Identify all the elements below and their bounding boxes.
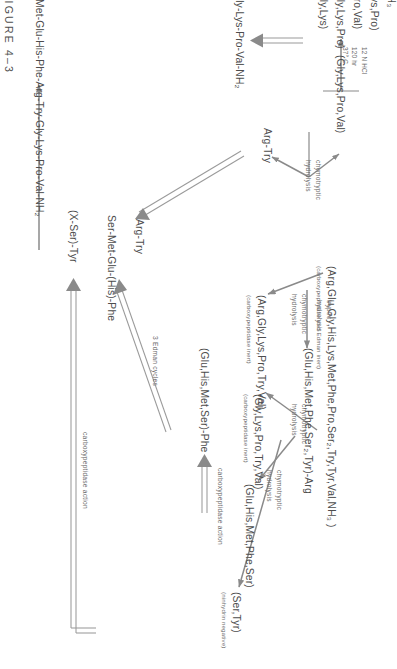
label-chymotryptic-fork-line1: chymotryptic [313, 160, 323, 200]
label-carboxypeptidase-action-2: carboxypeptidase action [80, 432, 90, 509]
node-x-ser-tyr-text: (X-Ser)-Tyr [68, 210, 79, 263]
condition-temp: 37° C [340, 47, 350, 75]
node-arg-try-top: Arg-Try [260, 128, 273, 163]
label-chymotryptic-3-line1: chymotryptic [274, 470, 284, 510]
label-chymotryptic-2-line2: hydrolysis [290, 404, 300, 444]
node-hydrolysate-c: (Gly,Lys) [316, 0, 329, 29]
node-tryptic-big: (Arg,Gly,Lys,Pro,Try,Val) (carboxypeptid… [245, 295, 267, 410]
node-glu-his-phe-text: (Glu,His,Met,Ser)-Phe [199, 348, 210, 452]
node-ser-met-glu-his-phe: Ser-Met-Glu-(His)-Phe [104, 215, 117, 321]
label-chymotryptic-fork-line2: hydrolysis [304, 160, 314, 200]
node-hydrolysate-e: NH₃ [384, 0, 397, 8]
node-tryptic-big-note: (carboxypeptidase inert) [245, 295, 253, 410]
label-chymotryptic-3-line2: hydrolysis [265, 470, 275, 510]
conditions-acid-hydrolysis: 12 N HCl 120 hr 37° C [340, 47, 369, 75]
node-x-ser-tyr: (X-Ser)-Tyr [66, 210, 79, 263]
node-arg-try-top-text: Arg-Try [262, 128, 273, 163]
node-ser-tyr: (Ser,Tyr) (ninhydrin negative) [220, 592, 242, 648]
node-tryptic-small-text: (Gly,Lys,Pro,Try,Val) [253, 394, 264, 490]
node-glu-his-ser: (Glu,His,Met,Phe,Ser) [242, 484, 255, 588]
double-arrow-edman [113, 279, 171, 432]
node-ser-tyr-note: (ninhydrin negative) [220, 592, 228, 648]
label-edman-cycles: 3 Edman cycles [150, 336, 160, 386]
node-final-sequence-text: X-Ser-Tyr-Ser-Met-Glu-His-Phe-Arg-Try-Gl… [34, 0, 45, 217]
figure-caption: FIGURE 4–3 [3, 0, 15, 74]
node-tryptic-small-note: (carboxypeptidase inert) [242, 394, 250, 490]
label-chymotryptic-fork: chymotryptic hydrolysis [304, 160, 323, 200]
label-tryptic-line2: hydrolysis [315, 300, 325, 332]
label-carboxypeptidase-action-1: carboxypeptidase action [215, 468, 225, 545]
node-ser-tyr-text: (Ser,Tyr) [231, 592, 242, 633]
condition-time: 120 hr [350, 47, 360, 75]
node-glu-his-phe: (Glu,His,Met,Ser)-Phe [197, 348, 210, 452]
node-arg-try-mid: Arg-Try [132, 219, 145, 254]
node-hydrolysate-d-text: (Lys,Pro) [369, 0, 380, 31]
label-tryptic-line1: tryptic [324, 300, 334, 332]
label-chymotryptic-2: chymotryptic hydrolysis [290, 404, 309, 444]
node-hydrolysate-b-text: (Pro,Val) [352, 0, 363, 29]
node-hydrolysate-a: (Gly,Lys,Pro) [333, 0, 346, 49]
double-arrow-arg-try-diagonal [135, 151, 244, 220]
node-glu-his-ser-text: (Glu,His,Met,Phe,Ser) [244, 484, 255, 588]
node-hydrolysate-e-text: NH₃ [386, 0, 397, 8]
node-hydrolysate-c-text: (Gly,Lys) [318, 0, 329, 29]
label-chymotryptic-2-line1: chymotryptic [299, 404, 309, 444]
node-hydrolysate-d: (Lys,Pro) [367, 0, 380, 31]
node-hydrolysate-a-text: (Gly,Lys,Pro) [335, 0, 346, 49]
node-gly-lys-pro-val-nh2: Gly-Lys-Pro-Val-NH₂ [232, 0, 245, 89]
node-hydrolysate-b: (Pro,Val) [350, 0, 363, 29]
node-final-sequence: X-Ser-Tyr-Ser-Met-Glu-His-Phe-Arg-Try-Gl… [32, 0, 45, 217]
double-arrow-to-gly-lys-pro-val-nh2 [250, 34, 303, 48]
condition-acid: 12 N HCl [359, 47, 369, 75]
node-tryptic-big-text: (Arg,Gly,Lys,Pro,Try,Val) [256, 295, 267, 410]
label-chymotryptic-1: chymotryptic hydrolysis [290, 294, 309, 334]
node-tryptic-small: (Gly,Lys,Pro,Try,Val) (carboxypeptidase … [242, 394, 264, 490]
label-tryptic: tryptic hydrolysis [315, 300, 334, 332]
double-arrow-carboxypeptidase-1 [197, 454, 212, 513]
node-gly-lys-pro-val-nh2-text: Gly-Lys-Pro-Val-NH₂ [234, 0, 245, 89]
label-chymotryptic-1-line2: hydrolysis [290, 294, 300, 334]
label-chymotryptic-3: chymotryptic hydrolysis [265, 470, 284, 510]
node-ser-met-glu-his-phe-text: Ser-Met-Glu-(His)-Phe [106, 215, 117, 321]
label-chymotryptic-1-line1: chymotryptic [299, 294, 309, 334]
node-arg-try-mid-text: Arg-Try [134, 219, 145, 254]
